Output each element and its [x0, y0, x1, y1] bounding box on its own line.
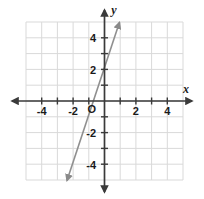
y-tick-label-pos-4: 4 [90, 32, 97, 44]
coordinate-plane-figure: -4 -2 2 4 4 2 -2 -4 O x y [0, 0, 204, 199]
y-tick-label-neg-4: -4 [86, 159, 97, 171]
figure-background [0, 0, 204, 199]
y-axis-name-label: y [109, 3, 117, 17]
x-axis-name-label: x [182, 82, 189, 96]
x-tick-label-neg-2: -2 [68, 105, 78, 117]
y-tick-label-neg-2: -2 [86, 127, 96, 139]
x-tick-label-pos-4: 4 [164, 105, 171, 117]
y-tick-label-pos-2: 2 [90, 64, 96, 76]
origin-label: O [87, 103, 96, 115]
x-tick-label-pos-2: 2 [133, 105, 139, 117]
coordinate-plane-svg: -4 -2 2 4 4 2 -2 -4 O x y [0, 0, 204, 199]
x-tick-label-neg-4: -4 [37, 105, 48, 117]
